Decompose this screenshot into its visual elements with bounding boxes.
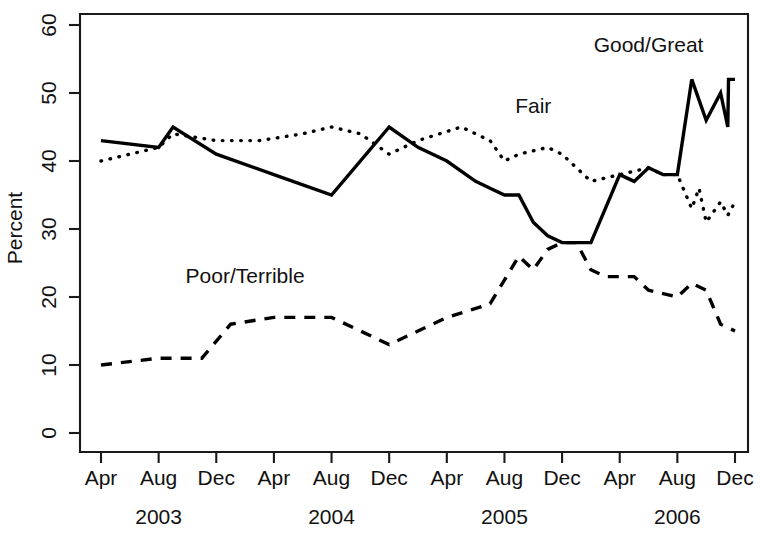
x-tick-label: Aug	[313, 466, 350, 489]
y-tick-label: 60	[37, 13, 60, 36]
y-axis-title: Percent	[3, 192, 26, 265]
x-tick-label: Aug	[659, 466, 696, 489]
y-tick-label: 10	[37, 353, 60, 376]
x-tick-label: Dec	[198, 466, 235, 489]
chart-background	[0, 0, 765, 543]
y-tick-label: 20	[37, 285, 60, 308]
x-tick-label: Aug	[140, 466, 177, 489]
y-tick-label: 50	[37, 81, 60, 104]
x-axis-year-label: 2004	[308, 505, 355, 528]
y-tick-label: 30	[37, 217, 60, 240]
x-tick-label: Apr	[85, 466, 118, 489]
x-tick-label: Dec	[371, 466, 408, 489]
series-label-poor-terrible: Poor/Terrible	[186, 264, 305, 287]
line-chart: 0102030405060 AprAugDecAprAugDecAprAugDe…	[0, 0, 765, 543]
series-label-good-great: Good/Great	[594, 33, 704, 56]
x-tick-label: Apr	[258, 466, 291, 489]
y-tick-label: 40	[37, 149, 60, 172]
x-axis-year-label: 2003	[135, 505, 182, 528]
x-tick-label: Dec	[543, 466, 580, 489]
x-tick-label: Aug	[486, 466, 523, 489]
x-tick-label: Apr	[603, 466, 636, 489]
chart-container: 0102030405060 AprAugDecAprAugDecAprAugDe…	[0, 0, 765, 543]
y-tick-label: 0	[37, 427, 60, 439]
x-tick-label: Apr	[430, 466, 463, 489]
x-axis-year-label: 2006	[654, 505, 701, 528]
x-axis-year-label: 2005	[481, 505, 528, 528]
x-tick-label: Dec	[716, 466, 753, 489]
series-label-fair: Fair	[515, 94, 551, 117]
